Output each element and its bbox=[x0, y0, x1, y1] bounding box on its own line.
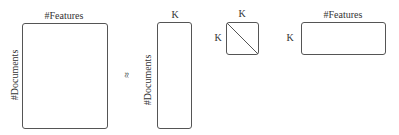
label-k-top-3: K bbox=[238, 9, 245, 19]
label-features-top-4: #Features bbox=[324, 10, 363, 20]
label-k-side-3: K bbox=[214, 33, 221, 43]
label-k-side-4: K bbox=[286, 33, 293, 43]
matrix-topic-feature bbox=[301, 22, 386, 55]
diagonal-line-icon bbox=[0, 0, 399, 135]
